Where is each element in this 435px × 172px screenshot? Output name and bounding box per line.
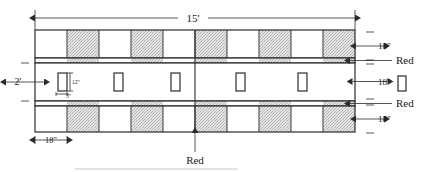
module-width-label: 18" [45,135,57,145]
brick-width-label: 3" [66,93,71,99]
diagram-page: 15' [0,0,435,172]
top-course-height-label: 18" [378,41,391,51]
brick-height-label: 12" [72,79,80,85]
middle-height-label: 2' [15,76,22,87]
bottom-course-height-label: 18" [378,114,391,124]
red-label-top: Red [396,54,414,66]
middle-course-height-label: 18" [378,77,391,87]
red-label-middle: Red [396,97,414,109]
overall-width-label: 15' [187,12,200,24]
red-label-bottom: Red [186,154,204,166]
brick-unit-legend [398,76,406,91]
wall-elevation-diagram: 15' [0,0,435,172]
wall-body [35,30,355,132]
